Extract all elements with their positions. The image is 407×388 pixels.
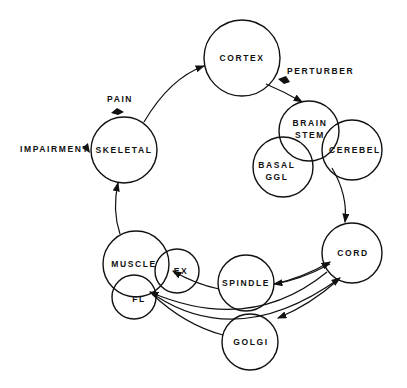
label-cerebel: CEREBEL [329, 145, 381, 155]
label-muscle: MUSCLE [111, 259, 157, 269]
label-impairment: IMPAIRMENT [20, 144, 89, 154]
label-cord: CORD [337, 248, 368, 258]
label-brainstem-1: BRAIN [293, 118, 328, 128]
pain-arrow-icon [111, 108, 124, 115]
label-perturber: PERTURBER [287, 66, 354, 76]
label-golgi: GOLGI [233, 337, 268, 347]
label-ex: EX [174, 266, 189, 276]
label-basal-2: GGL [265, 172, 288, 182]
edge-muscle-skeletal [115, 183, 120, 234]
perturber-arrow-icon [278, 76, 290, 84]
label-cortex: CORTEX [219, 53, 264, 63]
label-spindle: SPINDLE [222, 278, 270, 288]
label-pain: PAIN [107, 94, 133, 104]
label-fl: FL [132, 294, 146, 304]
edge-cerebel-cord [332, 168, 345, 222]
label-basal-1: BASAL [258, 160, 295, 170]
edge-cortex-brainstem [266, 84, 302, 102]
label-skeletal: SKELETAL [95, 145, 152, 155]
motor-control-diagram: CORTEX BRAIN STEM CEREBEL BASAL GGL SKEL… [0, 0, 407, 388]
label-brainstem-2: STEM [295, 130, 325, 140]
edge-skeletal-cortex [144, 66, 204, 122]
edge-spindle-cord [274, 262, 330, 284]
